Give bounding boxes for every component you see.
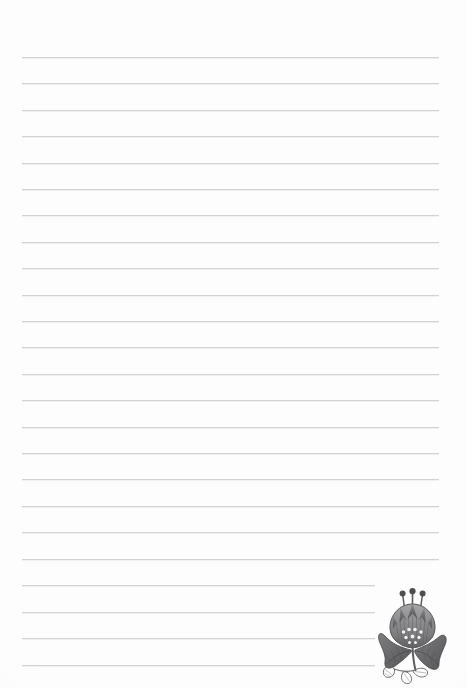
rule-line [22,57,439,58]
rule-line [22,665,375,666]
rule-line [22,427,439,428]
rule-line [22,585,375,586]
lined-paper-page [0,0,467,689]
rule-line [22,189,439,190]
rule-line [22,638,375,639]
rule-line [22,612,375,613]
rule-line [22,242,439,243]
rule-line [22,400,439,401]
rule-line [22,506,439,507]
rule-line [22,479,439,480]
rule-line [22,295,439,296]
rule-line [22,83,439,84]
rule-line [22,215,439,216]
rule-line [22,110,439,111]
rule-line [22,532,439,533]
rule-line [22,347,439,348]
rule-line [22,453,439,454]
rule-line [22,268,439,269]
rule-line [22,136,439,137]
rule-line [22,559,439,560]
rule-line [22,321,439,322]
rule-line [22,374,439,375]
ruled-lines-group [0,0,467,689]
rule-line [22,163,439,164]
